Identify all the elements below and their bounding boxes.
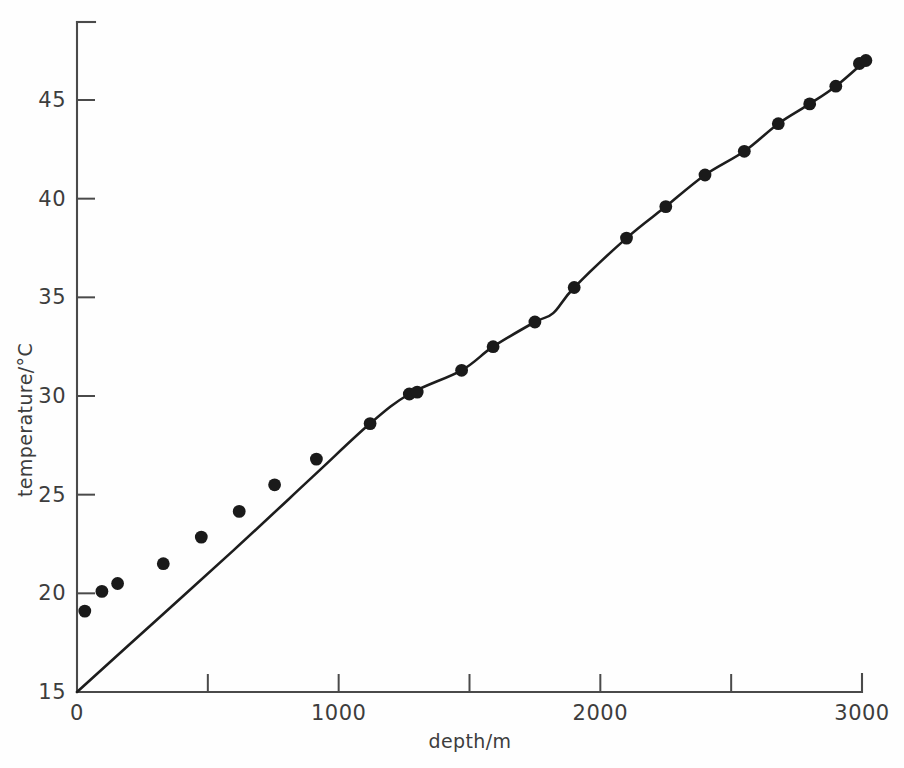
y-tick-label: 15 (38, 680, 66, 704)
x-tick-label: 3000 (834, 701, 889, 725)
data-point (829, 80, 842, 93)
data-point (268, 478, 281, 491)
data-point (738, 145, 751, 158)
y-tick-label: 30 (38, 384, 66, 408)
data-point (96, 585, 109, 598)
data-point (659, 200, 672, 213)
data-point (310, 453, 323, 466)
y-tick-label: 40 (38, 187, 66, 211)
x-axis-title: depth/m (428, 730, 511, 752)
data-point (568, 281, 581, 294)
data-point (364, 417, 377, 430)
data-point (529, 316, 542, 329)
x-tick-label: 0 (70, 701, 84, 725)
y-tick-label: 35 (38, 285, 66, 309)
data-point (860, 54, 873, 67)
x-tick-label: 1000 (311, 701, 366, 725)
data-point (803, 98, 816, 111)
data-point (78, 605, 91, 618)
data-point (195, 531, 208, 544)
data-point (487, 340, 500, 353)
x-tick-group: 0100020003000 (70, 674, 890, 725)
data-point (620, 232, 633, 245)
data-point-group (78, 54, 872, 617)
data-point (772, 117, 785, 130)
data-point (233, 505, 246, 518)
x-tick-label: 2000 (573, 701, 628, 725)
axis-group (77, 22, 862, 692)
figure-canvas: 15202530354045 0100020003000 depth/m tem… (0, 0, 904, 768)
data-point (455, 364, 468, 377)
data-point (157, 557, 170, 570)
data-point (699, 169, 712, 182)
data-point (111, 577, 124, 590)
data-point (411, 386, 424, 399)
temperature-depth-scatter-chart: 15202530354045 0100020003000 depth/m tem… (0, 0, 904, 768)
y-tick-label: 20 (38, 581, 66, 605)
y-tick-label: 45 (38, 88, 66, 112)
y-tick-label: 25 (38, 483, 66, 507)
y-axis-title: temperature/°C (14, 343, 36, 497)
